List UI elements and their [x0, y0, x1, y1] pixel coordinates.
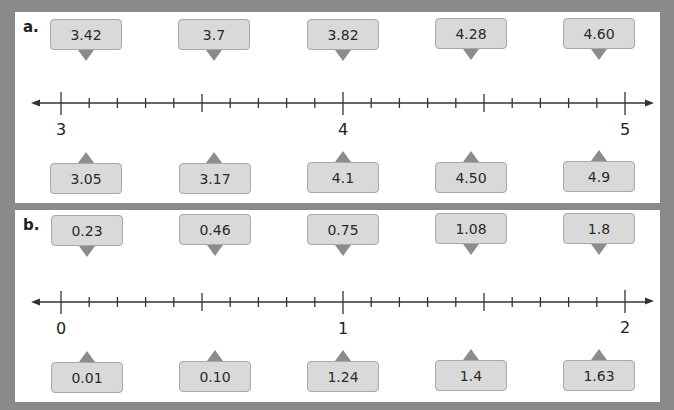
value-box: 3.17: [179, 163, 251, 194]
value-box: 0.01: [51, 362, 123, 393]
pointer-up-icon: [591, 150, 607, 161]
value-box: 4.50: [435, 162, 507, 193]
value-box: 1.4: [435, 360, 507, 391]
pointer-up-icon: [335, 151, 351, 162]
tick-label: 4: [338, 120, 348, 139]
pointer-up-icon: [78, 152, 94, 163]
pointer-up-icon: [79, 351, 95, 362]
pointer-up-icon: [463, 151, 479, 162]
tick-label: 1: [338, 319, 348, 338]
tick-label: 3: [56, 120, 66, 139]
arrow-left-icon: [31, 299, 40, 306]
arrow-right-icon: [645, 100, 654, 107]
tick-label: 2: [620, 318, 630, 337]
pointer-up-icon: [591, 349, 607, 360]
pointer-up-icon: [335, 350, 351, 361]
pointer-up-icon: [463, 349, 479, 360]
tick-label: 0: [56, 319, 66, 338]
arrow-right-icon: [645, 298, 654, 305]
number-line-panel-a: a. 3.42 3.7 3.82 4.28 4.60: [15, 12, 660, 203]
pointer-up-icon: [206, 152, 222, 163]
value-box: 0.10: [179, 361, 251, 392]
tick-label: 5: [620, 120, 630, 139]
number-line-panel-b: b. 0.23 0.46 0.75 1.08 1.8: [15, 210, 660, 402]
value-box: 4.9: [563, 161, 635, 192]
arrow-left-icon: [31, 100, 40, 107]
value-box: 3.05: [50, 163, 122, 194]
value-box: 1.24: [307, 361, 379, 392]
pointer-up-icon: [207, 350, 223, 361]
value-box: 1.63: [563, 360, 635, 391]
value-box: 4.1: [307, 162, 379, 193]
